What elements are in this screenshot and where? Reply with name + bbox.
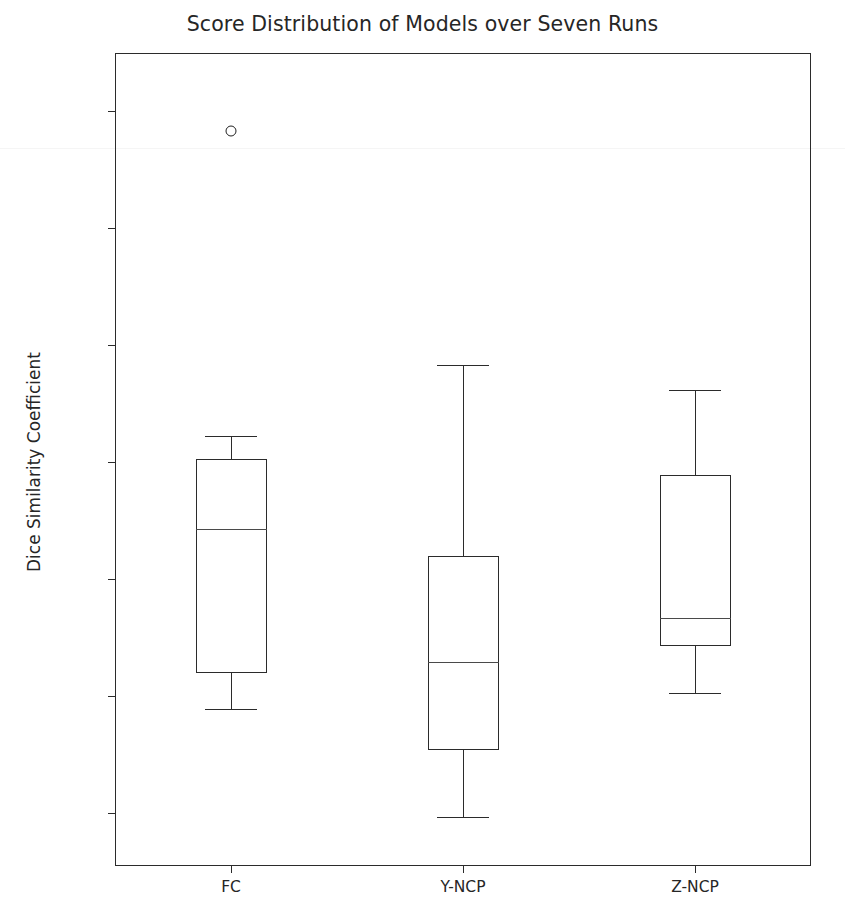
x-tick-label-y-ncp: Y-NCP xyxy=(383,878,543,896)
outlier-marker xyxy=(226,126,237,137)
y-tick-mark xyxy=(108,111,116,112)
y-tick-mark xyxy=(108,462,116,463)
whisker-lower xyxy=(695,646,696,693)
x-tick-mark xyxy=(695,866,696,873)
box-iqr xyxy=(428,556,499,750)
whisker-upper xyxy=(463,365,464,556)
chart-title: Score Distribution of Models over Seven … xyxy=(0,12,845,36)
median-line xyxy=(660,618,731,619)
y-tick-mark xyxy=(108,813,116,814)
x-tick-label-fc: FC xyxy=(151,878,311,896)
whisker-cap-upper xyxy=(669,390,720,391)
whisker-cap-lower xyxy=(669,693,720,694)
y-tick-mark xyxy=(108,696,116,697)
whisker-lower xyxy=(463,750,464,817)
y-tick-mark xyxy=(108,228,116,229)
figure-canvas: Score Distribution of Models over Seven … xyxy=(0,0,845,914)
whisker-upper xyxy=(695,390,696,475)
box-iqr xyxy=(660,475,731,646)
box-iqr xyxy=(196,459,267,673)
whisker-upper xyxy=(231,436,232,459)
x-tick-mark xyxy=(463,866,464,873)
x-tick-label-z-ncp: Z-NCP xyxy=(615,878,775,896)
y-tick-mark xyxy=(108,345,116,346)
whisker-cap-upper xyxy=(437,365,488,366)
y-axis-label: Dice Similarity Coefficient xyxy=(24,332,44,592)
whisker-cap-upper xyxy=(205,436,256,437)
whisker-lower xyxy=(231,673,232,709)
y-tick-mark xyxy=(108,579,116,580)
whisker-cap-lower xyxy=(205,709,256,710)
x-tick-mark xyxy=(231,866,232,873)
median-line xyxy=(196,529,267,530)
whisker-cap-lower xyxy=(437,817,488,818)
median-line xyxy=(428,662,499,663)
